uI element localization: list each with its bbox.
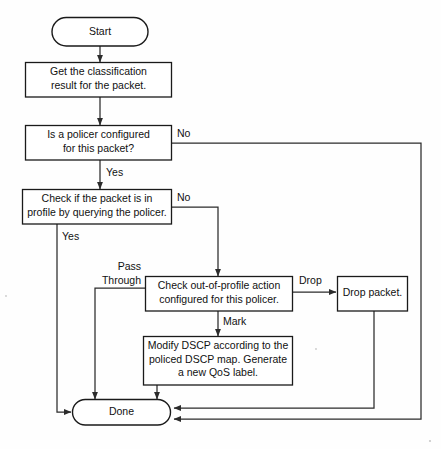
node-classify-line2: result for the packet. (51, 79, 146, 91)
scan-speck (5, 295, 7, 297)
edge-label-mark: Mark (223, 315, 247, 327)
node-classify-line1: Get the classification (50, 65, 147, 77)
node-out-of-profile-action-line2: configured for this policer. (159, 293, 279, 305)
node-drop-packet-label: Drop packet. (343, 286, 403, 298)
edge-label-drop: Drop (299, 274, 322, 286)
node-out-of-profile-action-line1: Check out-of-profile action (158, 279, 281, 291)
edge-profile-no-to-action (172, 207, 218, 276)
node-policer-check-line2: for this packet? (63, 142, 134, 154)
node-modify-dscp-line1: Modify DSCP according to the (148, 339, 289, 351)
node-start-label: Start (89, 25, 111, 37)
edge-label-profile-no: No (177, 191, 191, 203)
node-modify-dscp-line2: policed DSCP map. Generate (149, 353, 287, 365)
node-policer-check-line1: Is a policer configured (47, 128, 150, 140)
edge-profile-yes-to-done (57, 224, 71, 412)
node-profile-check-line1: Check if the packet is in (42, 192, 153, 204)
node-profile-check-line2: profile by querying the policer. (27, 206, 167, 218)
scan-speck (429, 440, 431, 442)
node-modify-dscp-line3: a new QoS label. (178, 366, 258, 378)
edge-pass-through-to-done (95, 288, 145, 399)
flowchart-canvas: Start Get the classification result for … (0, 0, 441, 449)
flowchart-svg: Start Get the classification result for … (0, 0, 441, 449)
edge-label-policer-no: No (177, 127, 191, 139)
edge-label-pass-line1: Pass (118, 260, 141, 272)
node-done-label: Done (109, 405, 134, 417)
edge-label-profile-yes: Yes (62, 230, 79, 242)
edge-label-policer-yes: Yes (106, 166, 123, 178)
scan-speck (315, 348, 317, 350)
edge-label-pass-line2: Through (102, 274, 141, 286)
